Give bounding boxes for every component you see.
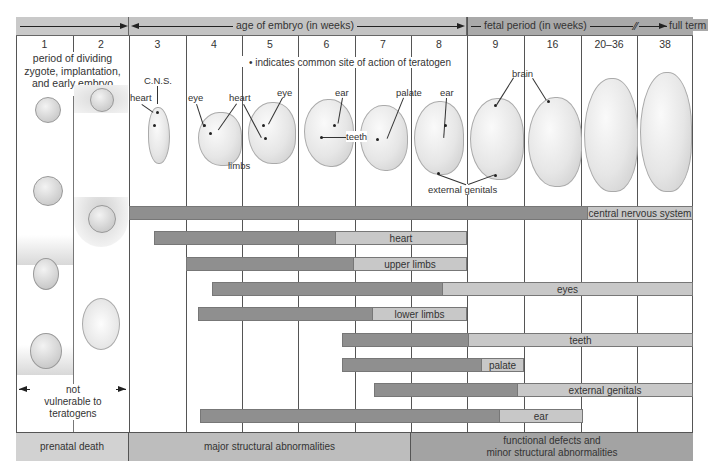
band-functional-defects: functional defects and minor structural …	[411, 432, 693, 461]
bar-highly-sensitive	[187, 258, 353, 270]
bar-highly-sensitive	[130, 207, 587, 219]
week-label: 20–36	[581, 38, 637, 50]
bar-palate: palate	[342, 358, 524, 372]
bar-external-genitals: external genitals	[374, 383, 693, 397]
implanting-blastocyst-illustration	[30, 333, 62, 369]
description-line: period of dividing	[17, 52, 128, 65]
bar-upper-limbs: upper limbs	[186, 257, 467, 271]
teeth-label: teeth	[346, 131, 367, 142]
week-label: 8	[411, 38, 467, 50]
bar-highly-sensitive	[213, 283, 442, 295]
week-label: 3	[129, 38, 186, 50]
bar-label: external genitals	[517, 384, 692, 396]
pointer-line	[322, 137, 346, 138]
site-marker	[494, 104, 497, 107]
column-divider	[637, 36, 638, 432]
limbs-label: limbs	[228, 160, 250, 171]
arrow-left-icon	[19, 386, 27, 392]
fetal-period-label: fetal period (in weeks)	[481, 19, 590, 31]
week-label: 16	[524, 38, 581, 50]
embryo-week7-illustration	[360, 105, 408, 171]
teratogen-note: • indicates common site of action of ter…	[248, 57, 452, 68]
site-marker	[153, 124, 156, 127]
embryo-week8-illustration	[414, 101, 464, 175]
site-marker	[494, 174, 497, 177]
embedded-embryo-illustration	[90, 88, 114, 112]
palate-label: palate	[396, 87, 422, 98]
band-label: major structural abnormalities	[204, 441, 335, 453]
arrow-line	[20, 26, 120, 27]
morula-illustration	[33, 176, 63, 206]
site-marker	[437, 172, 440, 175]
bar-eyes: eyes	[212, 282, 693, 296]
ear-label-week6: ear	[335, 87, 349, 98]
week-label: 4	[186, 38, 242, 50]
bar-heart: heart	[154, 231, 467, 245]
site-marker	[262, 124, 265, 127]
bar-highly-sensitive	[199, 308, 372, 320]
fetus-week16-illustration	[528, 97, 582, 187]
header-fetal-period: fetal period (in weeks) ⁄⁄ full term	[467, 17, 693, 36]
site-marker	[209, 132, 212, 135]
cns-label: C.N.S.	[144, 75, 172, 86]
bar-highly-sensitive	[201, 410, 499, 422]
band-prenatal-death: prenatal death	[16, 432, 129, 461]
week-label: 6	[298, 38, 355, 50]
week-label: 5	[242, 38, 298, 50]
week-label: 38	[637, 38, 693, 50]
description-line: zygote, implantation,	[17, 65, 128, 78]
bar-highly-sensitive	[155, 232, 335, 244]
label-line: teratogens	[30, 408, 116, 420]
bar-highly-sensitive	[343, 334, 468, 346]
week-label: 1	[16, 38, 73, 50]
break-icon: ⁄⁄	[633, 20, 639, 32]
embryo-week3-illustration	[148, 107, 170, 164]
week-label: 7	[355, 38, 411, 50]
bar-label: teeth	[468, 334, 692, 346]
label-line: vulnerable to	[30, 396, 116, 408]
column-divider	[242, 67, 243, 432]
early-embryo-illustration	[82, 298, 120, 350]
bar-highly-sensitive	[343, 359, 481, 371]
column-divider	[73, 96, 74, 432]
external-genitals-label: external genitals	[428, 184, 497, 195]
bar-label: eyes	[442, 283, 692, 295]
fetus-week38-illustration	[640, 72, 692, 192]
bar-central-nervous-system: central nervous system	[129, 206, 693, 220]
site-marker	[547, 100, 550, 103]
header-early-period	[16, 17, 129, 36]
early-period-description: period of dividing zygote, implantation,…	[17, 52, 128, 90]
band-label: minor structural abnormalities	[486, 447, 617, 459]
embryo-week5-illustration	[248, 102, 296, 164]
bar-label: lower limbs	[372, 308, 466, 320]
header-embryo-period: age of embryo (in weeks)	[129, 17, 467, 36]
bar-label: upper limbs	[353, 258, 466, 270]
brain-label: brain	[512, 68, 533, 79]
site-marker	[156, 111, 159, 114]
bar-highly-sensitive	[375, 384, 517, 396]
band-major-structural-abnormalities: major structural abnormalities	[129, 432, 411, 461]
embryo-week4-illustration	[198, 112, 242, 166]
bar-lower-limbs: lower limbs	[198, 307, 467, 321]
arrow-left-icon	[131, 23, 139, 29]
label-line: not	[30, 384, 116, 396]
arrow-right-icon	[457, 23, 465, 29]
bar-ear: ear	[200, 409, 583, 423]
site-marker	[264, 137, 267, 140]
pointer-line	[157, 86, 158, 104]
bar-label: palate	[481, 359, 523, 371]
heart-label-week4: heart	[229, 92, 251, 103]
site-marker	[333, 124, 336, 127]
eye-label-week5: eye	[277, 87, 292, 98]
arrow-right-icon	[118, 386, 126, 392]
full-term-label: full term	[667, 19, 708, 31]
site-marker	[203, 124, 206, 127]
bar-label: ear	[499, 410, 582, 422]
band-label: prenatal death	[40, 441, 104, 453]
not-vulnerable-label: not vulnerable to teratogens	[30, 384, 116, 420]
band-label: functional defects and	[486, 435, 617, 447]
bar-label: heart	[335, 232, 466, 244]
week-label: 9	[467, 38, 524, 50]
fetus-week9-illustration	[470, 98, 524, 180]
site-marker	[320, 136, 323, 139]
